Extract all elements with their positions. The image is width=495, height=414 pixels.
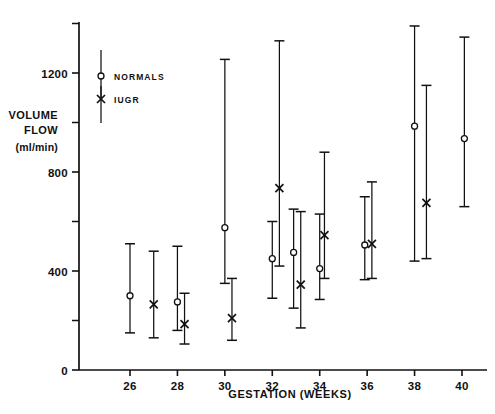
marker-circle-normals [461, 136, 467, 142]
data-point-group [421, 85, 431, 258]
data-point-group [227, 278, 237, 340]
data-point-group [315, 214, 325, 299]
data-point-group [180, 293, 190, 344]
data-point-group [172, 246, 182, 330]
data-point-group [149, 251, 159, 338]
marker-circle-normals [317, 266, 323, 272]
legend-label-normals: NORMALS [114, 72, 165, 82]
x-tick-label: 38 [408, 380, 422, 392]
data-point-group [274, 41, 284, 266]
data-point-group [125, 244, 135, 333]
data-point-group [296, 212, 306, 328]
marker-circle-normals [412, 123, 418, 129]
data-point-group [360, 197, 370, 280]
y-axis-title-units: (ml/min) [16, 141, 58, 153]
y-tick-label: 800 [48, 167, 68, 179]
y-axis-title-line1: VOLUME [9, 109, 58, 121]
x-tick-label: 26 [123, 380, 136, 392]
marker-circle-normals [222, 225, 228, 231]
y-tick-label: 400 [48, 266, 68, 278]
x-axis-title: GESTATION (WEEKS) [228, 388, 351, 400]
marker-circle-normals [127, 293, 133, 299]
chart-canvas: 040080012002628303234363840VOLUMEFLOW(ml… [0, 0, 495, 414]
marker-circle-normals [362, 242, 368, 248]
data-point-group [220, 59, 230, 283]
legend-marker-circle [98, 73, 104, 79]
y-tick-label: 1200 [41, 68, 68, 80]
marker-circle-normals [174, 299, 180, 305]
data-point-group [410, 26, 420, 261]
y-axis-title-line2: FLOW [24, 124, 58, 136]
x-tick-label: 28 [171, 380, 185, 392]
volume-flow-gestation-chart: 040080012002628303234363840VOLUMEFLOW(ml… [0, 0, 495, 414]
data-point-group [319, 152, 329, 278]
legend-label-iugr: IUGR [114, 95, 140, 105]
marker-circle-normals [291, 249, 297, 255]
data-point-group [459, 37, 469, 207]
data-point-group [267, 222, 277, 299]
data-point-group [289, 209, 299, 308]
marker-circle-normals [269, 256, 275, 262]
y-tick-label: 0 [61, 365, 68, 377]
x-tick-label: 36 [360, 380, 373, 392]
x-tick-label: 40 [455, 380, 468, 392]
